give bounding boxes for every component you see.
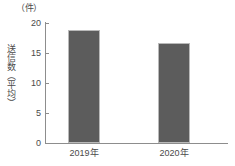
x-axis-label-2020: 2020年 bbox=[142, 148, 206, 158]
y-tick-label: 20 bbox=[0, 19, 41, 28]
bar-2020[interactable] bbox=[158, 43, 190, 143]
y-tick-label: 0 bbox=[0, 139, 41, 148]
y-tick-mark bbox=[45, 83, 49, 84]
y-axis-unit-label: （件） bbox=[16, 1, 42, 14]
y-tick-mark bbox=[45, 113, 49, 114]
x-axis-line bbox=[45, 143, 228, 144]
y-tick-label: 5 bbox=[0, 109, 41, 118]
y-tick-mark bbox=[45, 143, 49, 144]
y-tick-label: 10 bbox=[0, 79, 41, 88]
bar-2019[interactable] bbox=[68, 30, 100, 143]
y-tick-label: 15 bbox=[0, 49, 41, 58]
y-tick-mark bbox=[45, 53, 49, 54]
x-axis-label-2019: 2019年 bbox=[52, 148, 116, 158]
y-tick-mark bbox=[45, 23, 49, 24]
bar-chart: （件） 送信数（平均） 20 15 10 5 0 2019年 2020年 bbox=[0, 0, 235, 166]
